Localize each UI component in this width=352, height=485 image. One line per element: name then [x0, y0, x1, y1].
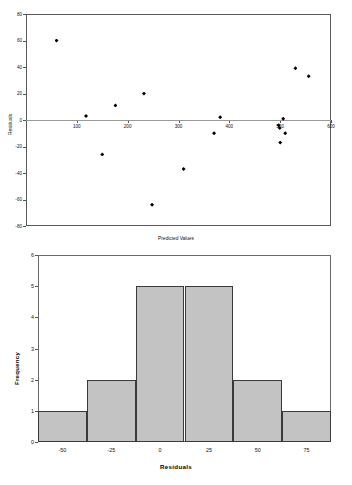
scatter-point — [100, 152, 104, 156]
histogram-y-axis-title: Frequency — [14, 352, 20, 385]
scatter-y-tick-label: -80 — [4, 224, 22, 229]
scatter-point — [218, 115, 222, 119]
scatter-y-tick-label: 80 — [4, 12, 22, 17]
scatter-point — [182, 167, 186, 171]
histogram-y-tick-label: 4 — [24, 314, 34, 320]
histogram-x-axis-title: Residuals — [0, 463, 352, 470]
residuals-scatter-chart: 806040200-20-40-60-80 100200300400500600… — [0, 0, 352, 245]
scatter-y-tick-label: 20 — [4, 91, 22, 96]
chart-page: 806040200-20-40-60-80 100200300400500600… — [0, 0, 352, 485]
histogram-bar — [136, 286, 185, 442]
scatter-point — [55, 39, 59, 43]
histogram-y-tick-label: 2 — [24, 377, 34, 383]
histogram-bar — [185, 286, 234, 442]
histogram-bar — [38, 411, 87, 442]
scatter-y-tick-label: -60 — [4, 197, 22, 202]
histogram-y-tick-label: 5 — [24, 283, 34, 289]
scatter-y-axis-title: Residuals — [8, 114, 13, 135]
histogram-y-tick-label: 3 — [24, 346, 34, 352]
scatter-y-tick-label: 0 — [4, 118, 22, 123]
scatter-data-area — [26, 14, 331, 226]
histogram-bar — [282, 411, 331, 442]
histogram-x-tick-label: 25 — [197, 447, 221, 453]
histogram-bar — [87, 380, 136, 442]
histogram-x-tick-label: -50 — [50, 447, 74, 453]
scatter-x-tick — [331, 120, 332, 123]
scatter-point — [212, 131, 216, 135]
histogram-x-tick-label: -25 — [99, 447, 123, 453]
histogram-bar — [233, 380, 282, 442]
scatter-point — [84, 114, 88, 118]
histogram-bars — [38, 255, 331, 442]
scatter-x-axis-title: Predicted Values — [0, 236, 352, 241]
scatter-point — [150, 203, 154, 207]
scatter-y-tick-label: 60 — [4, 38, 22, 43]
histogram-y-tick-label: 6 — [24, 252, 34, 258]
scatter-point — [283, 131, 287, 135]
zero-reference-line — [26, 120, 331, 121]
scatter-point — [293, 66, 297, 70]
scatter-point — [307, 74, 311, 78]
scatter-y-tick — [23, 226, 26, 227]
scatter-y-tick-label: -40 — [4, 171, 22, 176]
histogram-x-tick-label: 75 — [295, 447, 319, 453]
scatter-point — [142, 92, 146, 96]
histogram-y-tick — [35, 442, 38, 443]
scatter-point — [113, 103, 117, 107]
histogram-x-tick-label: 0 — [148, 447, 172, 453]
histogram-x-tick-label: 50 — [246, 447, 270, 453]
scatter-point — [278, 141, 282, 145]
histogram-y-tick-label: 0 — [24, 439, 34, 445]
scatter-y-tick-label: 40 — [4, 65, 22, 70]
histogram-y-tick-label: 1 — [24, 408, 34, 414]
scatter-y-tick-label: -20 — [4, 144, 22, 149]
residuals-histogram-chart: 6543210 -50-250255075 Frequency Residual… — [0, 245, 352, 485]
